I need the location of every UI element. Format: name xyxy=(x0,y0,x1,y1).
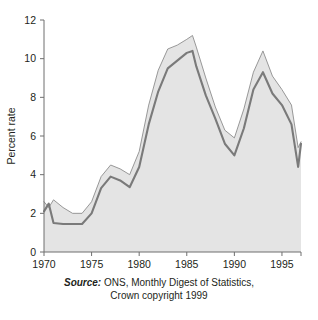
band-fill-path xyxy=(44,35,301,252)
y-tick-label: 10 xyxy=(24,52,36,64)
x-tick-label: 1980 xyxy=(128,258,152,270)
y-axis-ticks xyxy=(40,20,44,252)
caption-line-1: Source: ONS, Monthly Digest of Statistic… xyxy=(0,276,318,289)
chart-figure: 024681012 197019751980198519901995 Perce… xyxy=(0,0,318,320)
y-tick-label: 0 xyxy=(30,246,36,258)
x-tick-label: 1970 xyxy=(32,258,56,270)
x-tick-label: 1975 xyxy=(80,258,104,270)
caption-source-text: ONS, Monthly Digest of Statistics, xyxy=(101,277,254,288)
x-axis-ticks xyxy=(44,252,301,256)
x-tick-label: 1990 xyxy=(223,258,247,270)
caption-line-2: Crown copyright 1999 xyxy=(0,289,318,302)
band-area xyxy=(44,35,301,252)
unemployment-rate-area-chart: 024681012 197019751980198519901995 Perce… xyxy=(0,0,318,320)
y-axis-title: Percent rate xyxy=(5,107,17,164)
y-tick-label: 4 xyxy=(30,168,36,180)
x-axis-tick-labels: 197019751980198519901995 xyxy=(32,258,293,270)
figure-caption: Source: ONS, Monthly Digest of Statistic… xyxy=(0,276,318,302)
x-tick-label: 1995 xyxy=(270,258,294,270)
y-tick-label: 8 xyxy=(30,91,36,103)
y-tick-label: 6 xyxy=(30,130,36,142)
caption-source-label: Source: xyxy=(64,277,101,288)
y-tick-label: 12 xyxy=(24,14,36,26)
x-tick-label: 1985 xyxy=(175,258,199,270)
y-axis-tick-labels: 024681012 xyxy=(24,14,36,258)
y-tick-label: 2 xyxy=(30,207,36,219)
